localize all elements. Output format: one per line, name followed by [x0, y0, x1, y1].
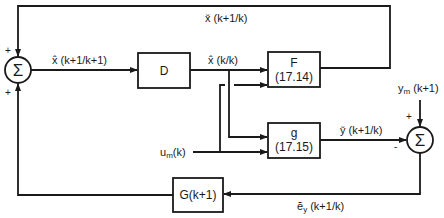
sigma-icon: Σ — [13, 61, 24, 80]
block-diagram: Σ + + x̂ (k+1/k+1) D x̂ (k/k) um(k) F (1… — [0, 0, 444, 218]
right-summer-left-sign: - — [394, 141, 397, 152]
block-F-ref: (17.14) — [275, 70, 313, 84]
right-summer: Σ — [407, 127, 433, 153]
block-G: G(k+1) — [173, 178, 223, 212]
block-D: D — [138, 53, 190, 88]
block-D-label: D — [160, 64, 169, 78]
block-F-label: F — [290, 56, 297, 70]
block-g-ref: (17.15) — [275, 140, 313, 154]
signal-x-est-next: x̂ (k+1/k+1) — [52, 54, 107, 66]
signal-e-y: ĕy (k+1/k) — [297, 200, 344, 214]
block-g-label: g — [291, 126, 298, 140]
sigma-icon: Σ — [415, 131, 426, 150]
block-g: g (17.15) — [268, 123, 320, 158]
signal-x-est: x̂ (k/k) — [208, 54, 238, 66]
block-G-label: G(k+1) — [179, 188, 216, 202]
line-u-up — [220, 85, 225, 152]
signal-x-pred: x̆ (k+1/k) — [205, 12, 247, 24]
block-F: F (17.14) — [268, 52, 320, 87]
line-G-to-summer — [18, 84, 173, 195]
left-summer-bottom-sign: + — [5, 87, 11, 98]
left-summer-top-sign: + — [5, 45, 11, 56]
signal-y-meas: ym (k+1) — [398, 82, 439, 96]
line-error-to-G — [224, 153, 420, 194]
left-summer: Σ — [5, 57, 31, 83]
signal-u-meas: um(k) — [160, 146, 186, 160]
signal-y-pred: y̆ (k+1/k) — [340, 124, 382, 136]
right-summer-top-sign: + — [406, 111, 412, 122]
line-x-est-to-g — [229, 70, 267, 137]
